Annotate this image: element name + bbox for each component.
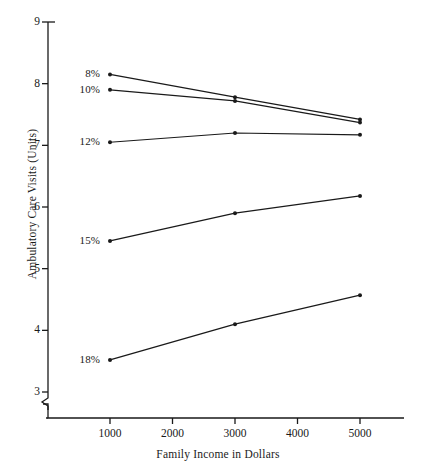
y-axis-tick-label: 6 [14, 201, 40, 213]
y-axis-tick-label: 8 [14, 78, 40, 90]
data-point [358, 194, 362, 198]
x-axis-spine [43, 404, 404, 418]
series-line-15pct [110, 196, 360, 241]
x-axis-tick-label: 5000 [335, 428, 385, 440]
x-axis-tick-label: 1000 [85, 428, 135, 440]
series-label-15pct: 15% [58, 235, 100, 246]
data-point [108, 72, 112, 76]
y-axis-tick-label: 7 [14, 139, 40, 151]
x-axis-tick-label: 4000 [273, 428, 323, 440]
data-point [233, 211, 237, 215]
data-point [358, 293, 362, 297]
x-axis-tick-label: 2000 [148, 428, 198, 440]
data-point [233, 322, 237, 326]
series-label-12pct: 12% [58, 136, 100, 147]
chart-figure: Ambulatory Care Visits (Units) Family In… [0, 0, 436, 474]
y-axis-break-icon [42, 392, 48, 410]
y-axis-tick-label: 4 [14, 324, 40, 336]
data-point [233, 95, 237, 99]
data-point [108, 358, 112, 362]
series-label-10pct: 10% [58, 84, 100, 95]
data-point [233, 99, 237, 103]
data-point [233, 131, 237, 135]
x-axis-tick-label: 3000 [210, 428, 260, 440]
data-point [358, 121, 362, 125]
data-point [108, 140, 112, 144]
series-line-10pct [110, 90, 360, 123]
series-line-18pct [110, 295, 360, 360]
series-label-18pct: 18% [58, 354, 100, 365]
x-axis-title: Family Income in Dollars [0, 448, 436, 460]
y-axis-tick-label: 5 [14, 263, 40, 275]
data-point [358, 133, 362, 137]
series-label-8pct: 8% [58, 68, 100, 79]
y-axis-tick-label: 9 [14, 16, 40, 28]
data-point [108, 239, 112, 243]
data-point [108, 88, 112, 92]
y-axis-tick-label: 3 [14, 386, 40, 398]
